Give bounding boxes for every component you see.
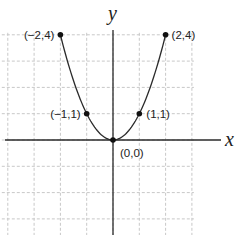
point-label: (−1,1) <box>50 108 81 120</box>
y-axis-label: y <box>106 2 117 25</box>
parabola-chart: x y (−2,4)(−1,1)(0,0)(1,1)(2,4) <box>0 0 240 235</box>
data-point <box>58 32 64 38</box>
data-point <box>84 111 90 117</box>
data-point <box>137 111 143 117</box>
x-axis-label: x <box>224 128 234 150</box>
data-point <box>163 32 169 38</box>
point-label: (2,4) <box>172 29 196 41</box>
point-label: (0,0) <box>120 147 144 159</box>
grid-lines <box>2 33 194 235</box>
point-label: (−2,4) <box>24 29 55 41</box>
point-label: (1,1) <box>146 108 170 120</box>
data-point <box>110 137 116 143</box>
